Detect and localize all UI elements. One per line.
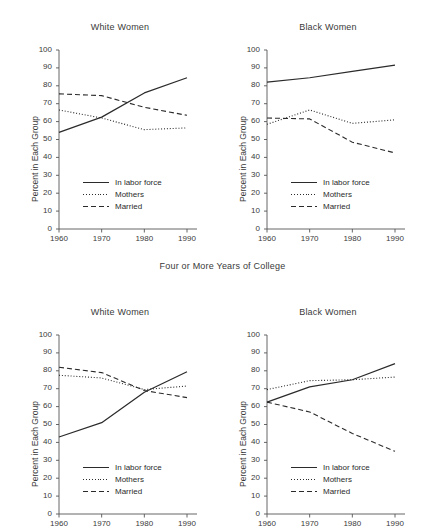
y-tick-label: 60 <box>238 401 260 410</box>
x-tick-label: 1980 <box>127 519 161 528</box>
y-tick-label: 100 <box>238 45 260 54</box>
x-tick-label: 1960 <box>250 234 284 243</box>
y-tick-label: 90 <box>30 62 52 71</box>
y-tick-label: 40 <box>238 437 260 446</box>
series-line-in-labor-force <box>267 364 395 402</box>
y-tick-label: 100 <box>30 45 52 54</box>
y-tick-label: 0 <box>238 224 260 233</box>
legend-swatch-dotted <box>291 479 317 480</box>
y-tick-label: 50 <box>238 134 260 143</box>
series-line-mothers <box>59 110 187 130</box>
y-tick-label: 80 <box>238 80 260 89</box>
x-tick-label: 1990 <box>378 519 412 528</box>
series-line-mothers <box>59 375 187 389</box>
x-tick-label: 1970 <box>293 234 327 243</box>
legend-swatch-solid <box>291 467 317 468</box>
y-tick-label: 60 <box>238 116 260 125</box>
y-tick-label: 70 <box>30 383 52 392</box>
x-tick-label: 1960 <box>42 234 76 243</box>
y-tick-label: 60 <box>30 116 52 125</box>
chart-panel-bottom-left: White Women Percent in Each Group In lab… <box>20 307 220 530</box>
x-tick-label: 1960 <box>42 519 76 528</box>
legend-swatch-dashed <box>83 206 109 207</box>
y-tick-label: 90 <box>238 62 260 71</box>
y-tick-label: 30 <box>30 455 52 464</box>
y-tick-label: 40 <box>238 152 260 161</box>
y-tick-label: 10 <box>238 206 260 215</box>
legend-swatch-dotted <box>83 479 109 480</box>
legend-swatch-solid <box>291 182 317 183</box>
x-tick-label: 1980 <box>335 519 369 528</box>
y-tick-label: 80 <box>30 365 52 374</box>
panel-title-bottom-left: White Women <box>20 307 220 317</box>
legend-swatch-solid <box>83 182 109 183</box>
legend-swatch-dotted <box>83 194 109 195</box>
x-tick-label: 1990 <box>170 234 204 243</box>
legend-swatch-dashed <box>83 491 109 492</box>
x-tick-label: 1990 <box>170 519 204 528</box>
y-tick-label: 50 <box>238 419 260 428</box>
legend-label: Married <box>323 201 350 213</box>
y-tick-label: 10 <box>238 491 260 500</box>
series-line-married <box>267 402 395 451</box>
panel-title-top-left: White Women <box>20 22 220 32</box>
chart-panel-bottom-right: Black Women Percent in Each Group In lab… <box>228 307 428 530</box>
y-tick-label: 80 <box>30 80 52 89</box>
y-tick-label: 80 <box>238 365 260 374</box>
x-tick-label: 1970 <box>293 519 327 528</box>
legend-label: In labor force <box>323 462 370 474</box>
y-tick-label: 20 <box>30 188 52 197</box>
chart-panel-top-right: Black Women Percent in Each Group In lab… <box>228 22 428 247</box>
legend-label: Mothers <box>115 474 144 486</box>
x-tick-label: 1980 <box>335 234 369 243</box>
y-tick-label: 40 <box>30 152 52 161</box>
series-line-in-labor-force <box>267 65 395 82</box>
x-tick-label: 1980 <box>127 234 161 243</box>
legend-label: Mothers <box>323 474 352 486</box>
x-tick-label: 1970 <box>85 519 119 528</box>
legend-label: Mothers <box>323 189 352 201</box>
y-tick-label: 90 <box>238 347 260 356</box>
y-tick-label: 30 <box>238 455 260 464</box>
panel-title-bottom-right: Black Women <box>228 307 428 317</box>
legend-label: Married <box>323 486 350 498</box>
y-tick-label: 30 <box>30 170 52 179</box>
legend-label: In labor force <box>115 177 162 189</box>
y-tick-label: 60 <box>30 401 52 410</box>
y-tick-label: 20 <box>238 188 260 197</box>
y-tick-label: 50 <box>30 419 52 428</box>
y-tick-label: 0 <box>30 224 52 233</box>
legend-label: Married <box>115 201 142 213</box>
chart-panel-top-left: White Women Percent in Each Group In lab… <box>20 22 220 247</box>
legend-label: Mothers <box>115 189 144 201</box>
y-tick-label: 20 <box>30 473 52 482</box>
y-tick-label: 70 <box>238 383 260 392</box>
legend-swatch-dashed <box>291 206 317 207</box>
y-tick-label: 70 <box>30 98 52 107</box>
x-tick-label: 1970 <box>85 234 119 243</box>
y-tick-label: 70 <box>238 98 260 107</box>
series-line-married <box>59 367 187 397</box>
legend-swatch-dotted <box>291 194 317 195</box>
x-tick-label: 1990 <box>378 234 412 243</box>
series-line-in-labor-force <box>59 78 187 133</box>
series-line-mothers <box>267 110 395 124</box>
y-tick-label: 100 <box>238 330 260 339</box>
legend-label: In labor force <box>115 462 162 474</box>
y-tick-label: 100 <box>30 330 52 339</box>
legend-swatch-solid <box>83 467 109 468</box>
group-label-four-or-more-years-of-college: Four or More Years of College <box>0 261 445 271</box>
y-tick-label: 10 <box>30 491 52 500</box>
legend-swatch-dashed <box>291 491 317 492</box>
y-tick-label: 30 <box>238 170 260 179</box>
y-tick-label: 0 <box>238 509 260 518</box>
x-tick-label: 1960 <box>250 519 284 528</box>
y-tick-label: 40 <box>30 437 52 446</box>
y-tick-label: 10 <box>30 206 52 215</box>
y-tick-label: 90 <box>30 347 52 356</box>
y-tick-label: 50 <box>30 134 52 143</box>
legend-label: Married <box>115 486 142 498</box>
legend-label: In labor force <box>323 177 370 189</box>
y-tick-label: 0 <box>30 509 52 518</box>
